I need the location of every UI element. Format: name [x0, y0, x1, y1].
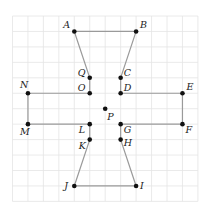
figure-canvas: ABQCODNEPMLGFKHJI [0, 0, 208, 214]
point-label-d: D [123, 82, 132, 93]
point-label-q: Q [78, 67, 86, 78]
point-h [118, 137, 123, 142]
point-label-o: O [78, 82, 86, 93]
point-label-b: B [139, 19, 147, 30]
point-d [118, 91, 123, 96]
point-label-c: C [124, 67, 132, 78]
point-o [87, 91, 92, 96]
point-n [26, 91, 31, 96]
point-label-l: L [78, 124, 85, 135]
point-f [180, 122, 185, 127]
point-j [72, 184, 77, 189]
point-a [72, 29, 77, 34]
point-label-m: M [19, 126, 30, 137]
point-label-f: F [184, 124, 192, 135]
point-k [87, 137, 92, 142]
point-c [118, 76, 123, 81]
point-label-j: J [62, 180, 69, 191]
point-label-n: N [19, 79, 29, 90]
point-label-g: G [124, 124, 132, 135]
point-q [87, 76, 92, 81]
point-l [87, 122, 92, 127]
point-label-i: I [139, 180, 144, 191]
point-g [118, 122, 123, 127]
point-label-e: E [185, 81, 193, 92]
point-b [134, 29, 139, 34]
point-i [134, 184, 139, 189]
point-label-k: K [78, 140, 87, 151]
point-label-a: A [62, 19, 70, 30]
point-label-h: H [123, 137, 133, 148]
point-e [180, 91, 185, 96]
point-label-p: P [106, 111, 114, 122]
